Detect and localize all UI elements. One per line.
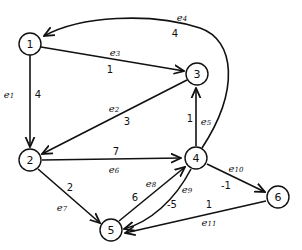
graph-canvas: e1 4 e2 3 e3 1 e4 4 e5 1 7 e6 2 e7 e8 6 … [0, 0, 302, 250]
edge-weight-e3: 1 [107, 64, 113, 75]
edge-e2 [42, 80, 187, 154]
edge-weight-e6: 7 [113, 146, 119, 157]
edge-label-e8: e8 [146, 178, 157, 190]
edge-weight-e8: 6 [132, 192, 138, 203]
edge-label-e3: e3 [110, 47, 121, 59]
node-5: 5 [100, 219, 122, 241]
edge-label-e11: e11 [202, 217, 217, 229]
edge-label-e2: e2 [109, 103, 120, 115]
edge-e11 [125, 201, 266, 233]
edge-label-e7: e7 [57, 202, 68, 214]
edge-label-e9: e9 [182, 184, 193, 196]
edge-weight-e4: 4 [172, 28, 178, 39]
edge-weight-e11: 1 [206, 199, 212, 210]
edge-weight-e5: 1 [187, 113, 193, 124]
svg-text:5: 5 [108, 224, 115, 237]
svg-text:2: 2 [27, 154, 34, 167]
svg-text:3: 3 [194, 68, 201, 81]
edge-label-e6: e6 [109, 164, 120, 176]
node-3: 3 [186, 63, 208, 85]
edge-weight-e9: -5 [167, 199, 177, 210]
edge-e7 [38, 169, 100, 223]
node-1: 1 [19, 33, 41, 55]
edge-label-e1: e1 [4, 89, 14, 101]
svg-text:6: 6 [275, 191, 282, 204]
node-2: 2 [19, 149, 41, 171]
edge-label-e10: e10 [229, 163, 244, 175]
edge-weight-e1: 4 [35, 89, 41, 100]
node-4: 4 [185, 147, 207, 169]
edge-e6 [42, 158, 181, 160]
edge-weight-e7: 2 [67, 182, 73, 193]
edge-weight-e2: 3 [124, 116, 130, 127]
edge-label-e5: e5 [201, 116, 212, 128]
svg-text:1: 1 [27, 38, 34, 51]
edge-label-e4: e4 [177, 12, 187, 24]
node-6: 6 [267, 186, 289, 208]
edge-weight-e10: -1 [221, 180, 231, 191]
svg-text:4: 4 [193, 152, 200, 165]
